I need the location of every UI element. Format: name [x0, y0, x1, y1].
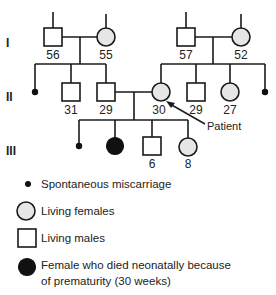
generation-label-i: I [6, 36, 9, 50]
generation-label-ii: II [6, 90, 13, 104]
female-symbol-27 [221, 83, 239, 101]
male-symbol-29-right [187, 83, 205, 101]
age-label-55: 55 [99, 48, 113, 62]
male-symbol-6 [143, 137, 161, 155]
female-symbol-30-patient [152, 83, 170, 101]
legend-males-label: Living males [41, 232, 105, 244]
female-symbol-8 [179, 138, 197, 156]
age-label-57: 57 [179, 48, 193, 62]
generation-label-iii: III [6, 144, 16, 158]
age-label-30: 30 [152, 103, 166, 117]
male-symbol-56 [44, 28, 62, 46]
legend-female-icon [17, 202, 35, 220]
miscarriage-dot-gen2-right [262, 89, 268, 95]
miscarriage-dot-gen2-left [32, 89, 38, 95]
age-label-6: 6 [149, 157, 156, 171]
female-symbol-55 [97, 28, 115, 46]
age-label-29-right: 29 [189, 103, 203, 117]
pedigree-chart: I II III 56 55 57 52 31 29 29 27 30 Pati… [0, 0, 276, 295]
male-symbol-31 [62, 83, 80, 101]
male-symbol-57 [177, 28, 195, 46]
age-label-27: 27 [223, 103, 237, 117]
male-symbol-29-husband [97, 83, 115, 101]
age-label-56: 56 [46, 48, 60, 62]
legend-miscarriage-label: Spontaneous miscarriage [41, 178, 171, 190]
age-label-29-husband: 29 [99, 103, 113, 117]
legend-neonatal-label-line1: Female who died neonatally because [41, 259, 231, 271]
legend-neonatal-label-line2: of prematurity (30 weeks) [41, 275, 171, 287]
age-label-52: 52 [234, 48, 248, 62]
age-label-31: 31 [64, 103, 78, 117]
female-symbol-52 [232, 28, 250, 46]
age-label-8: 8 [185, 157, 192, 171]
deceased-female-symbol [107, 138, 124, 155]
legend: Spontaneous miscarriage Living females L… [17, 178, 231, 287]
legend-deceased-female-icon [19, 259, 36, 276]
miscarriage-dot-gen3 [76, 143, 82, 149]
legend-females-label: Living females [41, 205, 115, 217]
legend-miscarriage-icon [25, 181, 31, 187]
proband-label: Patient [207, 120, 241, 132]
legend-male-icon [18, 229, 36, 247]
